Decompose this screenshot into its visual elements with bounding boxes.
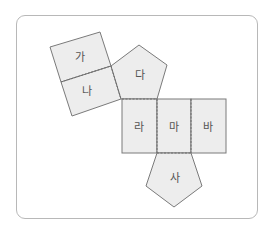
label-ma: 마	[169, 121, 179, 134]
prism-net: 가 나 다 라 마 바 사	[0, 0, 274, 238]
label-sa: 사	[170, 172, 180, 185]
label-da: 다	[135, 69, 145, 82]
label-ba: 바	[203, 121, 213, 134]
label-na: 나	[82, 85, 92, 98]
label-ga: 가	[75, 51, 85, 64]
label-ra: 라	[134, 121, 144, 134]
